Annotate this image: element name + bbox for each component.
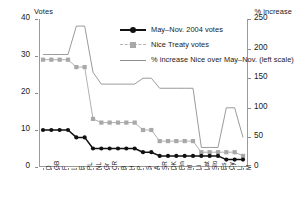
series-2 (41, 58, 245, 158)
data-point (199, 154, 203, 158)
data-point (133, 121, 137, 125)
series-1 (41, 128, 245, 162)
left-tick-label: 40 (14, 14, 30, 22)
legend-key-icon (120, 25, 146, 34)
data-point (174, 139, 178, 143)
data-point (99, 146, 103, 150)
legend-key-icon (120, 55, 146, 64)
data-point (174, 154, 178, 158)
data-point (208, 154, 212, 158)
chart-legend: May–Nov. 2004 votesNice Treaty votes% in… (120, 22, 294, 67)
x-tick-mark (126, 168, 127, 170)
left-tick-label: 30 (14, 51, 30, 59)
legend-label: % increase Nice over May–Nov. (left scal… (151, 55, 294, 64)
data-point (149, 150, 153, 154)
legend-label: May–Nov. 2004 votes (151, 25, 223, 34)
data-point (99, 121, 103, 125)
x-tick-mark (151, 168, 152, 170)
x-tick-mark (93, 168, 94, 170)
data-point (74, 135, 78, 139)
chart-container: Votes % increase 010203040 0501001502002… (0, 0, 296, 204)
legend-item-3[interactable]: % increase Nice over May–Nov. (left scal… (120, 52, 294, 67)
left-tick-mark (35, 130, 38, 131)
data-point (191, 154, 195, 158)
left-tick-mark (35, 93, 38, 94)
data-point (49, 58, 53, 62)
x-tick-mark (59, 168, 60, 170)
data-point (116, 121, 120, 125)
x-tick-mark (134, 168, 135, 170)
series-line (43, 60, 243, 156)
x-tick-mark (184, 168, 185, 170)
x-tick-mark (243, 168, 244, 170)
data-point (141, 128, 145, 132)
left-tick-label: 10 (14, 125, 30, 133)
legend-label: Nice Treaty votes (151, 40, 209, 49)
data-point (149, 128, 153, 132)
x-axis-label: M (246, 165, 252, 170)
right-tick-mark (248, 108, 251, 109)
x-tick-mark (201, 168, 202, 170)
data-point (158, 154, 162, 158)
right-tick-mark (248, 19, 251, 20)
left-tick-label: 20 (14, 88, 30, 96)
data-point (83, 65, 87, 69)
x-tick-mark (43, 168, 44, 170)
data-point (191, 139, 195, 143)
left-tick-mark (35, 56, 38, 57)
data-point (91, 117, 95, 121)
data-point (74, 65, 78, 69)
data-point (241, 154, 245, 158)
x-tick-mark (109, 168, 110, 170)
x-tick-mark (234, 168, 235, 170)
data-point (216, 154, 220, 158)
legend-marker (130, 42, 136, 48)
right-tick-mark (248, 78, 251, 79)
data-point (66, 58, 70, 62)
data-point (133, 146, 137, 150)
x-tick-mark (168, 168, 169, 170)
data-point (108, 121, 112, 125)
data-point (224, 150, 228, 154)
x-tick-mark (176, 168, 177, 170)
right-tick-label: 0 (254, 162, 274, 170)
data-point (91, 146, 95, 150)
data-point (41, 58, 45, 62)
legend-key-icon (120, 40, 146, 49)
x-tick-mark (159, 168, 160, 170)
left-tick-label: 0 (14, 162, 30, 170)
data-point (124, 146, 128, 150)
left-tick-mark (35, 167, 38, 168)
x-tick-mark (84, 168, 85, 170)
x-tick-mark (218, 168, 219, 170)
data-point (199, 150, 203, 154)
right-tick-mark (248, 137, 251, 138)
x-tick-mark (209, 168, 210, 170)
data-point (241, 158, 245, 162)
data-point (108, 146, 112, 150)
data-point (183, 139, 187, 143)
legend-item-2[interactable]: Nice Treaty votes (120, 37, 294, 52)
x-tick-mark (193, 168, 194, 170)
x-tick-mark (51, 168, 52, 170)
data-point (216, 150, 220, 154)
data-point (166, 139, 170, 143)
data-point (116, 146, 120, 150)
data-point (141, 150, 145, 154)
x-tick-mark (68, 168, 69, 170)
data-point (58, 128, 62, 132)
data-point (41, 128, 45, 132)
x-tick-mark (118, 168, 119, 170)
x-tick-mark (101, 168, 102, 170)
data-point (49, 128, 53, 132)
legend-marker (130, 27, 136, 33)
x-tick-mark (226, 168, 227, 170)
data-point (158, 139, 162, 143)
data-point (58, 58, 62, 62)
data-point (183, 154, 187, 158)
left-axis-title: Votes (34, 7, 53, 16)
legend-item-1[interactable]: May–Nov. 2004 votes (120, 22, 294, 37)
data-point (208, 150, 212, 154)
x-tick-mark (76, 168, 77, 170)
right-tick-label: 150 (254, 73, 274, 81)
